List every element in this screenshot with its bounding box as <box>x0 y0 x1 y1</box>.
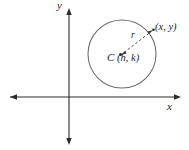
center-letter-label: C <box>107 52 114 63</box>
y-axis-top-arrow-icon <box>66 8 71 15</box>
x-axis-left-arrow-icon <box>10 94 17 100</box>
radius-segment <box>124 33 150 53</box>
radius-label: r <box>131 31 135 41</box>
y-axis-group <box>66 8 71 145</box>
y-axis-bottom-arrow-icon <box>66 138 71 145</box>
x-axis-group <box>10 94 181 100</box>
x-axis-right-arrow-icon <box>174 94 181 100</box>
circle-point-coordinates-label: (x, y) <box>155 22 177 33</box>
y-axis-label: y <box>57 0 62 11</box>
circle-diagram-figure: y x C (h, k) r (x, y) <box>0 0 189 150</box>
x-axis-label: x <box>167 101 172 112</box>
center-coordinates-label: (h, k) <box>117 53 139 64</box>
